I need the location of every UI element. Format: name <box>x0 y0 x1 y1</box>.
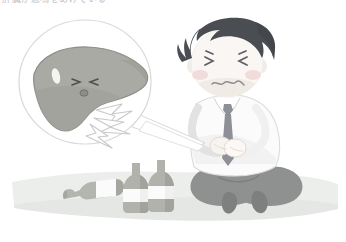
thought-bubble <box>19 20 152 148</box>
illustration-canvas: 肝臓が悲鳴をあげている <box>0 0 346 242</box>
liver-mouth <box>80 90 88 96</box>
left-blush <box>192 70 208 80</box>
seated-man <box>177 18 302 214</box>
scene-illustration <box>0 0 346 242</box>
right-blush <box>245 70 261 80</box>
bottle-standing-left <box>123 163 149 213</box>
bottle-standing-right <box>148 160 174 212</box>
